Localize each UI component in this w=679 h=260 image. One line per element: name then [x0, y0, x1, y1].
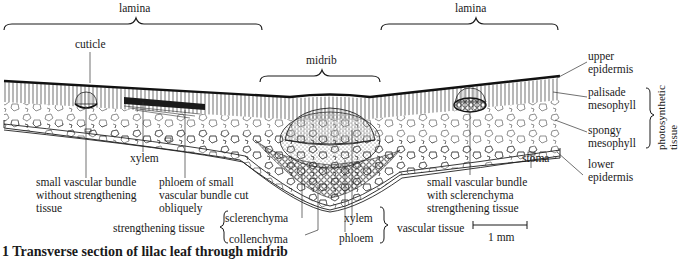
- palisade-mesophyll-label: palisade mesophyll: [588, 86, 636, 112]
- midrib-brace: [260, 70, 380, 82]
- phloem-oblique-label: phloem of small vascular bundle cut obli…: [159, 176, 248, 215]
- vascular-tissue-label: vascular tissue: [397, 222, 464, 235]
- upper-epidermis-label: upper epidermis: [588, 50, 633, 76]
- lamina-right-brace: [381, 18, 558, 30]
- scale-bar: [473, 221, 527, 229]
- lamina-left-label: lamina: [119, 2, 150, 15]
- stoma-label: stoma: [522, 152, 549, 165]
- photosynthetic-tissue-label: photosynthetic tissue: [655, 85, 679, 150]
- lamina-right-label: lamina: [455, 2, 486, 15]
- photosynthetic-brace: [646, 88, 654, 148]
- figure-caption: 1 Transverse section of lilac leaf throu…: [2, 244, 288, 260]
- cuticle-label: cuticle: [75, 38, 106, 51]
- midrib-label: midrib: [306, 54, 337, 67]
- vascular-brace: [380, 207, 388, 243]
- lamina-left-brace: [4, 18, 262, 30]
- scale-bar-label: 1 mm: [488, 231, 515, 244]
- xylem-label: xylem: [344, 212, 373, 225]
- small-bundle-sclerenchyma-label: small vascular bundle with sclerenchyma …: [427, 176, 527, 215]
- spongy-mesophyll-label: spongy mesophyll: [588, 124, 636, 150]
- small-bundle-no-strengthening-label: small vascular bundle without strengthen…: [36, 176, 137, 215]
- lower-epidermis-label: lower epidermis: [588, 158, 633, 184]
- phloem-label: phloem: [339, 232, 374, 245]
- strengthening-tissue-label: strengthening tissue: [113, 222, 205, 235]
- sclerenchyma-label: sclerenchyma: [225, 212, 288, 225]
- xylem-small-label: xylem: [130, 152, 159, 165]
